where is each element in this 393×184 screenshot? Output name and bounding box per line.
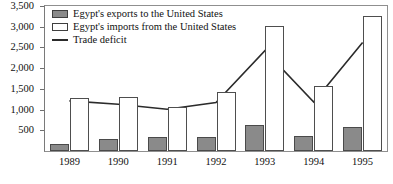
bar-imports-1992 <box>217 92 236 151</box>
trade-chart: 5001,0001,5002,0002,5003,0003,500 198919… <box>0 0 393 184</box>
y-axis-tick-label: 1,500 <box>10 84 34 94</box>
legend-item: Egypt's exports to the United States <box>52 8 236 20</box>
bar-exports-1994 <box>294 136 313 151</box>
legend-item: Trade deficit <box>52 34 236 46</box>
bar-imports-1994 <box>314 86 333 151</box>
bar-exports-1991 <box>148 137 167 151</box>
x-axis-label-1992: 1992 <box>206 156 227 168</box>
bar-exports-1990 <box>99 139 118 151</box>
x-axis-label-1993: 1993 <box>254 156 275 168</box>
legend-swatch-imports-icon <box>52 23 68 31</box>
legend-label: Trade deficit <box>73 34 127 46</box>
x-axis-label-1995: 1995 <box>352 156 373 168</box>
legend-label: Egypt's imports from the United States <box>73 21 236 33</box>
bar-imports-1989 <box>70 98 89 151</box>
bar-imports-1993 <box>265 26 284 151</box>
legend-swatch-exports-icon <box>52 10 68 18</box>
x-axis-label-1989: 1989 <box>59 156 80 168</box>
bar-exports-1989 <box>50 144 69 151</box>
bar-imports-1995 <box>363 16 382 151</box>
bar-exports-1993 <box>245 125 264 151</box>
y-axis-tick-label: 1,000 <box>10 105 34 115</box>
bar-imports-1990 <box>119 97 138 151</box>
y-axis-tick-label: 2,000 <box>10 63 34 73</box>
x-axis-label-1991: 1991 <box>157 156 178 168</box>
legend-label: Egypt's exports to the United States <box>73 8 223 20</box>
y-axis-tick-label: 3,000 <box>10 22 34 32</box>
y-axis-tick-label: 500 <box>18 125 34 135</box>
bar-exports-1992 <box>197 137 216 151</box>
bar-imports-1991 <box>168 107 187 151</box>
chart-legend: Egypt's exports to the United StatesEgyp… <box>52 8 236 48</box>
legend-item: Egypt's imports from the United States <box>52 21 236 33</box>
y-axis-tick-label: 3,500 <box>10 1 34 11</box>
x-axis-label-1994: 1994 <box>303 156 324 168</box>
x-axis: 1989199019911992199319941995 <box>44 154 388 180</box>
legend-swatch-line-icon <box>52 36 68 44</box>
y-axis-tick-label: 2,500 <box>10 42 34 52</box>
y-axis: 5001,0001,5002,0002,5003,0003,500 <box>0 0 42 184</box>
bar-exports-1995 <box>343 127 362 151</box>
x-axis-label-1990: 1990 <box>108 156 129 168</box>
